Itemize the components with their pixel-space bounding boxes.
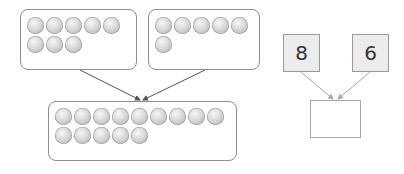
ball [74,108,91,125]
left-group-balls [27,17,132,53]
ball [112,127,129,144]
arrow-8-to-answer [301,72,333,99]
ball [193,17,210,34]
arrow-right-to-combined [143,70,205,100]
ball [150,108,167,125]
right-group-balls [155,17,260,53]
ball [65,36,82,53]
ball [131,108,148,125]
ball [169,108,186,125]
answer-box[interactable] [310,100,361,138]
ball [155,17,172,34]
addend-box-8: 8 [283,34,320,72]
combined-group-box [48,101,237,161]
ball [65,17,82,34]
ball [27,17,44,34]
ball [46,36,63,53]
arrow-left-to-combined [80,70,140,100]
ball [84,17,101,34]
ball [155,36,172,53]
diagram-canvas: 8 6 [0,0,404,174]
ball [74,127,91,144]
ball [188,108,205,125]
ball [231,17,248,34]
right-group-box [148,9,260,70]
ball [131,127,148,144]
ball [212,17,229,34]
ball [93,127,110,144]
addend-box-6: 6 [352,34,389,72]
ball [103,17,120,34]
ball [55,127,72,144]
left-group-box [20,9,137,70]
ball [207,108,224,125]
ball [93,108,110,125]
ball [112,108,129,125]
ball [27,36,44,53]
combined-group-balls [55,108,227,144]
ball [46,17,63,34]
ball [55,108,72,125]
ball [174,17,191,34]
arrow-6-to-answer [338,72,370,99]
